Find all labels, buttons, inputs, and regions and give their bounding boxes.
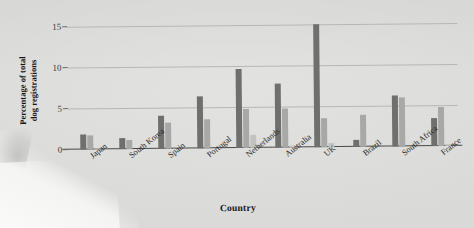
y-axis-tick-mark — [63, 149, 68, 150]
bar — [437, 107, 443, 146]
y-axis-title-line1: Percentage of total — [17, 56, 28, 125]
bar-group — [391, 95, 411, 146]
y-axis-tick-mark — [62, 26, 67, 27]
bar — [281, 109, 287, 148]
bar — [80, 135, 86, 150]
bar-group — [313, 24, 334, 147]
bar — [313, 24, 320, 147]
bar-group — [274, 83, 295, 147]
y-axis-tick-label: 10 — [52, 63, 61, 73]
bar — [353, 140, 359, 147]
bar — [360, 115, 366, 147]
bar — [391, 96, 397, 147]
y-axis-tick-label: 0 — [58, 145, 63, 155]
bar — [196, 97, 202, 149]
y-axis-title: Percentage of total dog registrations — [17, 36, 38, 144]
bar-group — [235, 69, 256, 148]
bar — [119, 138, 125, 150]
y-axis-tick-mark — [63, 67, 68, 68]
bar — [204, 120, 210, 149]
bar — [87, 135, 93, 149]
bar-chart-figure: Percentage of total dog registrations 05… — [0, 0, 474, 228]
y-axis-tick-mark — [63, 108, 68, 109]
bar — [235, 69, 242, 148]
bar — [321, 118, 327, 147]
figure-page: Percentage of total dog registrations 05… — [0, 0, 474, 228]
plot-area: 051015 — [67, 18, 458, 150]
bar-group — [196, 97, 216, 149]
bar-group — [353, 115, 373, 147]
gridline — [67, 23, 457, 28]
y-axis-tick-label: 5 — [57, 104, 62, 114]
bar — [398, 97, 404, 146]
bar — [126, 140, 132, 149]
y-axis-title-line2: dog registrations — [27, 59, 38, 121]
bar — [242, 109, 248, 148]
y-axis-tick-label: 15 — [52, 22, 61, 32]
gridline — [68, 64, 458, 69]
bar — [165, 122, 171, 148]
